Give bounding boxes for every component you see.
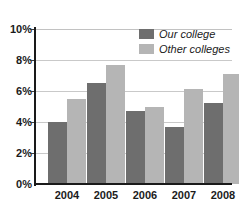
y-axis-label-8: 8% — [2, 55, 32, 66]
bar-our-college-2006 — [126, 111, 145, 184]
y-axis-label-0: 0% — [2, 179, 32, 190]
legend-item-our-college: Our college — [139, 27, 230, 40]
legend-swatch-icon-our-college — [139, 29, 154, 39]
legend-label-our-college: Our college — [159, 28, 215, 40]
x-axis-line — [34, 183, 232, 185]
y-axis-label-4: 4% — [2, 117, 32, 128]
y-axis-label-2: 2% — [2, 148, 32, 159]
y-axis-line — [34, 27, 36, 186]
x-axis-label-2008: 2008 — [194, 188, 239, 202]
bar-other-colleges-2005 — [106, 65, 125, 184]
chart-legend: Our college Other colleges — [139, 27, 230, 55]
gridline-8 — [36, 60, 232, 61]
bar-our-college-2007 — [165, 127, 184, 184]
bar-other-colleges-2004 — [67, 99, 86, 184]
bar-our-college-2004 — [48, 122, 67, 184]
bar-chart: 10% 8% 6% 4% 2% 0% 2004 — [0, 0, 239, 218]
y-axis-label-6: 6% — [2, 86, 32, 97]
y-axis-labels: 10% 8% 6% 4% 2% 0% — [0, 0, 32, 218]
x-axis-labels: 2004 2005 2006 2007 2008 — [36, 188, 232, 208]
legend-swatch-icon-other-colleges — [139, 44, 154, 54]
legend-label-other-colleges: Other colleges — [159, 43, 230, 55]
bar-our-college-2005 — [87, 83, 106, 184]
legend-item-other-colleges: Other colleges — [139, 42, 230, 55]
bar-our-college-2008 — [204, 103, 223, 184]
y-axis-label-10: 10% — [2, 24, 32, 35]
bar-other-colleges-2008 — [223, 74, 239, 184]
bar-other-colleges-2006 — [145, 107, 164, 185]
bar-other-colleges-2007 — [184, 89, 203, 184]
